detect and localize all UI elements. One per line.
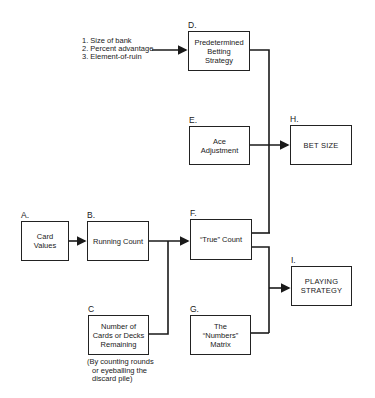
node-b-running-count: Running Count [87,221,149,261]
node-f-true-count: “True” Count [190,219,252,260]
node-d-letter: D. [188,21,197,30]
node-c-letter: C [88,305,94,314]
node-i-letter: I. [291,256,296,265]
node-d-predetermined-betting-strategy: Predetermined Betting Strategy [188,31,250,71]
node-g-letter: G. [190,305,199,314]
note-line: discard pile) [87,375,154,384]
node-e-ace-adjustment: Ace Adjustment [189,126,250,165]
node-a-label: Card Values [34,232,56,250]
node-i-playing-strategy: PLAYING STRATEGY [291,266,352,306]
node-c-label: Number of Cards or Decks Remaining [93,322,145,349]
node-e-label: Ace Adjustment [201,137,239,155]
node-b-label: Running Count [93,237,143,246]
node-g-label: The “Numbers” Matrix [203,322,238,349]
input-item: 3. Element-of-ruin [82,53,153,61]
node-a-letter: A. [21,211,29,220]
node-g-numbers-matrix: The “Numbers” Matrix [190,315,251,355]
node-h-bet-size: BET SIZE [290,125,352,165]
node-i-label: PLAYING STRATEGY [301,277,342,295]
node-h-label: BET SIZE [304,141,339,150]
node-a-card-values: Card Values [21,221,69,261]
node-c-note: (By counting rounds or eyeballing the di… [87,358,154,384]
betting-inputs-list: 1. Size of bank 2. Percent advantage 3. … [82,37,153,61]
node-f-letter: F. [190,209,197,218]
node-c-cards-remaining: Number of Cards or Decks Remaining [88,315,149,355]
node-f-label: “True” Count [200,235,242,244]
node-d-label: Predetermined Betting Strategy [194,38,243,65]
node-e-letter: E. [189,116,197,125]
node-h-letter: H. [290,115,299,124]
node-b-letter: B. [87,211,95,220]
